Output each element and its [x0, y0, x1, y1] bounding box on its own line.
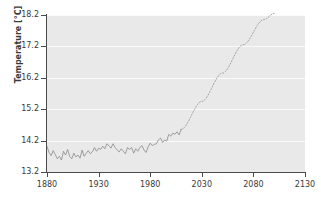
x-tick-label: 2080	[233, 180, 273, 189]
x-tick-label: 2030	[182, 180, 222, 189]
x-tick-label: 1930	[79, 180, 119, 189]
y-tick	[41, 141, 46, 142]
x-tick	[99, 173, 100, 177]
x-tick	[305, 173, 306, 177]
x-axis-line	[46, 172, 306, 173]
y-tick	[41, 172, 46, 173]
x-tick	[47, 173, 48, 177]
y-tick	[41, 46, 46, 47]
y-tick-label: 16.2	[2, 73, 39, 82]
series-layer	[47, 15, 305, 172]
y-tick-label: 13.2	[2, 167, 39, 176]
y-tick	[41, 109, 46, 110]
x-tick-label: 1880	[27, 180, 67, 189]
temperature-chart: Temperature [°C] 18.2 17.2 16.2 15.2 14.…	[0, 0, 321, 201]
observed-temperature-line	[47, 129, 181, 160]
x-tick	[150, 173, 151, 177]
x-tick	[202, 173, 203, 177]
x-tick-label: 1980	[130, 180, 170, 189]
y-tick-label: 15.2	[2, 104, 39, 113]
x-tick-label: 2130	[285, 180, 321, 189]
y-tick-label: 14.2	[2, 136, 39, 145]
y-tick-label: 17.2	[2, 41, 39, 50]
x-tick	[253, 173, 254, 177]
y-tick-label: 18.2	[2, 10, 39, 19]
y-tick	[41, 78, 46, 79]
projected-temperature-line	[181, 13, 274, 129]
y-tick	[41, 15, 46, 16]
